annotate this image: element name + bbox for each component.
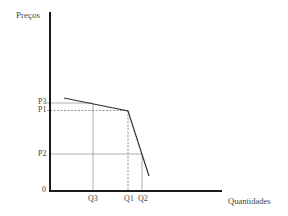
demand-curve [64, 98, 149, 176]
zero-label: 0 [42, 186, 46, 194]
q2-label: Q2 [138, 195, 148, 203]
p2-label: P2 [38, 150, 46, 158]
p1-label: P1 [38, 106, 46, 114]
x-axis-label: Quantidades [228, 197, 271, 205]
y-axis-label: Preços [16, 11, 40, 19]
q3-label: Q3 [88, 195, 98, 203]
q1-label: Q1 [124, 195, 134, 203]
